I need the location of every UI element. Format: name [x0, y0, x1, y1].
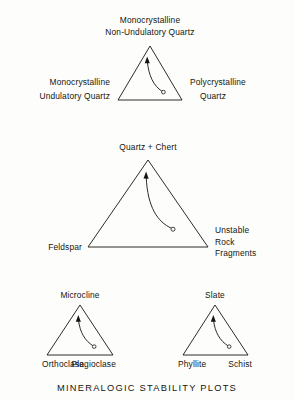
plot4-right-label: Schist [228, 359, 252, 369]
data-point-marker [171, 227, 175, 231]
plot2-apex-label: Quartz + Chert [119, 142, 177, 152]
plot2-right-label-line1: Unstable [215, 225, 249, 235]
plot1-apex-label-line2: Non-Undulatory Quartz [105, 27, 194, 37]
plot3-apex-label: Microcline [60, 290, 99, 300]
mineralogic-stability-plots-figure: Monocrystalline Non-Undulatory Quartz Mo… [0, 0, 295, 401]
plot1-right-label-line1: Polycrystalline [190, 77, 246, 87]
plot2-right-label-line3: Fragments [215, 248, 256, 258]
plot1-right-label-line2: Quartz [200, 91, 226, 101]
plot1-left-label-line2: Undulatory Quartz [39, 91, 110, 101]
plot3-right-label: Plagioclase [72, 359, 117, 369]
plot2-right-label-line2: Rock [215, 237, 235, 247]
plot1-apex-label-line1: Monocrystalline [120, 15, 181, 25]
plot4-apex-label: Slate [205, 290, 225, 300]
data-point-marker [92, 345, 96, 349]
plot1-left-label-line1: Monocrystalline [50, 77, 111, 87]
figure-caption: MINERALOGIC STABILITY PLOTS [57, 383, 237, 393]
data-point-marker [227, 345, 231, 349]
plot2-left-label: Feldspar [48, 242, 82, 252]
plot4-left-label: Phyllite [178, 359, 206, 369]
data-point-marker [162, 90, 166, 94]
